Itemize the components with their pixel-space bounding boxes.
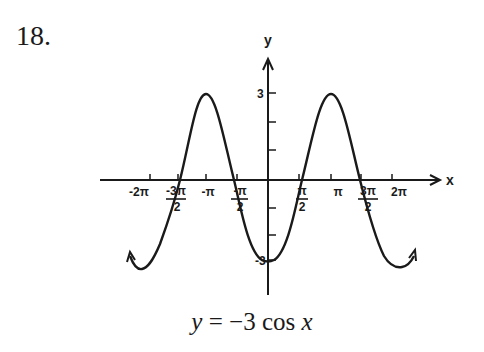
svg-text:2: 2 bbox=[174, 200, 181, 214]
x-tick-label-3pi-over-2: 3π 2 bbox=[358, 184, 378, 214]
y-axis-label: y bbox=[264, 32, 272, 48]
x-tick-label-minus-3pi-over-2: -3π 2 bbox=[166, 184, 186, 214]
curve-minus-3-cos-x bbox=[130, 94, 414, 269]
svg-text:-3π: -3π bbox=[166, 184, 186, 198]
equation-lhs: y bbox=[191, 308, 202, 335]
equation: y = −3 cos x bbox=[0, 308, 484, 336]
x-tick-label-pi-over-2: π 2 bbox=[296, 184, 308, 214]
y-ticks bbox=[268, 93, 276, 260]
svg-text:2: 2 bbox=[299, 200, 306, 214]
x-tick-label-2pi: 2π bbox=[391, 185, 407, 199]
x-tick-label-minus-pi: -π bbox=[201, 185, 214, 199]
equation-equals: = bbox=[209, 308, 223, 335]
svg-text:2: 2 bbox=[365, 200, 372, 214]
graph: y x 3 -3 -2π -3π 2 -π -π 2 π 2 π 3π 2 2π bbox=[0, 0, 484, 352]
svg-text:π: π bbox=[297, 184, 306, 198]
x-axis-label: x bbox=[446, 172, 454, 188]
y-tick-label-3: 3 bbox=[257, 87, 264, 101]
equation-rhs: −3 cos bbox=[229, 308, 295, 335]
svg-text:3π: 3π bbox=[360, 184, 376, 198]
equation-variable: x bbox=[302, 308, 313, 335]
x-tick-label-minus-pi-over-2: -π 2 bbox=[231, 184, 248, 214]
svg-text:-π: -π bbox=[233, 184, 246, 198]
x-tick-label-pi: π bbox=[333, 185, 342, 199]
x-tick-label-minus-2pi: -2π bbox=[129, 185, 149, 199]
y-tick-label-minus-3: -3 bbox=[255, 254, 266, 268]
svg-text:2: 2 bbox=[237, 200, 244, 214]
